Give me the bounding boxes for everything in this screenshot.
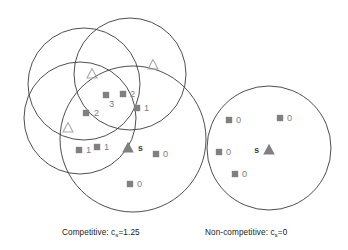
caption-non-competitive: Non-competitive: cs=0 [205, 228, 287, 237]
square-icon [103, 92, 109, 98]
caption-competitive-prefix: Competitive: c [62, 228, 115, 237]
user-count-label: 0 [242, 169, 247, 179]
user-count-label: 1 [144, 103, 149, 113]
user-marker: 0 [226, 115, 241, 125]
user-marker: 0 [216, 147, 231, 157]
user-marker: 2 [83, 108, 99, 118]
caption-non-competitive-suffix: =0 [278, 228, 288, 237]
user-count-label: 0 [287, 113, 292, 123]
square-icon [216, 149, 222, 155]
square-icon [134, 105, 140, 111]
square-icon [94, 144, 100, 150]
square-icon [127, 181, 133, 187]
user-marker: 0 [153, 149, 168, 159]
caption-competitive-suffix: =1.25 [118, 228, 139, 237]
square-icon [153, 151, 159, 157]
caption-competitive: Competitive: cs=1.25 [62, 228, 140, 237]
user-count-label: 1 [104, 142, 109, 152]
user-count-label: 0 [236, 115, 241, 125]
station-filled-icon [263, 144, 275, 155]
markers-layer: 32211100s0000s [63, 60, 292, 190]
caption-non-competitive-subscript: s [275, 231, 278, 238]
square-icon [232, 171, 238, 177]
station-open-icon [63, 123, 73, 132]
user-count-label: 2 [130, 89, 135, 99]
user-count-label: 3 [109, 99, 114, 109]
user-marker: 3 [103, 92, 114, 110]
square-icon [277, 115, 283, 121]
user-marker: 0 [232, 169, 247, 179]
user-count-label: 0 [226, 147, 231, 157]
circle-upper-left [28, 28, 140, 140]
user-count-label: 0 [163, 149, 168, 159]
user-marker: 2 [120, 89, 135, 99]
subject-station-label: s [138, 143, 143, 153]
user-marker: 1 [76, 145, 91, 155]
user-marker: 1 [94, 142, 109, 152]
caption-non-competitive-prefix: Non-competitive: c [205, 228, 275, 237]
figure-container: 32211100s0000s Competitive: cs=1.25 Non-… [0, 0, 348, 250]
subject-station-marker: s [254, 144, 275, 156]
square-icon [76, 147, 82, 153]
square-icon [83, 110, 89, 116]
subject-station-label: s [254, 145, 259, 155]
user-marker: 0 [277, 113, 292, 123]
user-count-label: 0 [137, 179, 142, 189]
diagram-canvas: 32211100s0000s [0, 0, 348, 250]
circles-layer [24, 18, 331, 212]
square-icon [226, 117, 232, 123]
station-filled-icon [122, 142, 134, 153]
circle-upper-right [74, 18, 186, 130]
user-count-label: 1 [86, 145, 91, 155]
circle-left [24, 62, 136, 174]
subject-station-marker: s [122, 142, 143, 154]
user-marker: 0 [127, 179, 142, 189]
user-count-label: 2 [94, 108, 99, 118]
square-icon [120, 91, 126, 97]
